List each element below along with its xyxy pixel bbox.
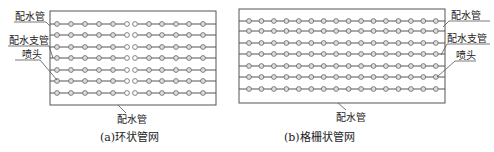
sprinkler-head-icon [111,56,116,61]
sprinkler-head-icon [187,22,192,27]
sprinkler-head-icon [83,68,88,73]
grid-network-diagram: 配水管 配水支管 喷头 配水管 (b)格栅状管网 [239,9,490,144]
sprinkler-head-icon [421,64,426,69]
sprinkler-head-icon [396,29,401,34]
sprinkler-head-icon [97,45,102,50]
sprinkler-head-icon [69,22,74,27]
sprinkler-head-icon [187,91,192,96]
sprinkler-head-icon [201,45,206,50]
sprinkler-head-icon [371,19,376,24]
sprinkler-head-icon [147,22,152,27]
sprinkler-head-icon [187,33,192,38]
sprinkler-head-icon [247,19,252,24]
sprinkler-head-icon [147,91,152,96]
sprinkler-head-icon [334,29,339,34]
sprinkler-head-icon [111,33,116,38]
sprinkler-head-icon [69,68,74,73]
sprinkler-head-icon [259,29,264,34]
sprinkler-head-icon [359,75,364,80]
sprinkler-head-icon [359,87,364,92]
sprinkler-head-icon [371,41,376,46]
sprinkler-head-icon [321,29,326,34]
sprinkler-head-icon [396,64,401,69]
sprinkler-head-icon [69,56,74,61]
sprinkler-head-icon [55,45,60,50]
sprinkler-head-icon [284,29,289,34]
sprinkler-head-icon [371,52,376,57]
sprinkler-head-icon [125,91,130,96]
sprinkler-head-icon [409,52,414,57]
sprinkler-head-icon [272,87,277,92]
sprinkler-head-icon [346,64,351,69]
sprinkler-head-icon [334,19,339,24]
sprinkler-head-icon [160,33,165,38]
sprinkler-head-icon [272,41,277,46]
sprinkler-head-icon [346,29,351,34]
sprinkler-head-icon [201,33,206,38]
pipe-network-diagrams: 配水管 配水支管 喷头 配水管 (a)环状管网 配水管 配水支管 喷头 配水管 … [0,0,494,152]
sprinkler-head-icon [409,75,414,80]
sprinkler-head-icon [409,29,414,34]
sprinkler-head-icon [421,29,426,34]
sprinkler-head-icon [259,52,264,57]
sprinkler-head-icon [55,68,60,73]
sprinkler-head-icon [433,29,438,34]
sprinkler-head-icon [97,56,102,61]
sprinkler-head-icon [433,41,438,46]
sprinkler-head-icon [396,87,401,92]
sprinkler-head-icon [284,41,289,46]
sprinkler-head-icon [133,68,138,73]
sprinkler-head-icon [125,22,130,27]
sprinkler-head-icon [321,41,326,46]
sprinkler-head-icon [384,87,389,92]
sprinkler-head-icon [111,68,116,73]
sprinkler-head-icon [259,87,264,92]
sprinkler-head-icon [409,87,414,92]
sprinkler-head-icon [247,64,252,69]
label-main-pipe-top-b: 配水管 [451,9,481,21]
sprinkler-head-icon [97,33,102,38]
sprinkler-head-icon [55,22,60,27]
ring-branch-pipes [50,22,216,96]
sprinkler-head-icon [321,19,326,24]
sprinkler-head-icon [321,64,326,69]
sprinkler-head-icon [201,22,206,27]
sprinkler-head-icon [334,64,339,69]
sprinkler-head-icon [125,45,130,50]
sprinkler-head-icon [409,41,414,46]
sprinkler-head-icon [247,52,252,57]
caption-a: (a)环状管网 [100,130,159,144]
sprinkler-head-icon [384,41,389,46]
sprinkler-head-icon [272,29,277,34]
sprinkler-head-icon [111,79,116,84]
sprinkler-head-icon [346,75,351,80]
sprinkler-head-icon [69,79,74,84]
sprinkler-head-icon [396,19,401,24]
sprinkler-head-icon [309,75,314,80]
sprinkler-head-icon [111,22,116,27]
sprinkler-head-icon [111,45,116,50]
sprinkler-head-icon [421,75,426,80]
sprinkler-head-icon [346,87,351,92]
sprinkler-head-icon [174,45,179,50]
sprinkler-head-icon [187,68,192,73]
label-branch-pipe-b: 配水支管 [447,32,487,44]
leader-main-pipe-b [443,21,490,27]
sprinkler-head-icon [247,41,252,46]
sprinkler-head-icon [371,64,376,69]
sprinkler-head-icon [259,75,264,80]
sprinkler-head-icon [97,68,102,73]
sprinkler-head-icon [69,45,74,50]
sprinkler-head-icon [433,64,438,69]
sprinkler-head-icon [296,29,301,34]
sprinkler-head-icon [133,56,138,61]
sprinkler-head-icon [147,33,152,38]
sprinkler-head-icon [284,75,289,80]
sprinkler-head-icon [309,52,314,57]
sprinkler-head-icon [125,68,130,73]
sprinkler-head-icon [187,79,192,84]
sprinkler-head-icon [201,56,206,61]
sprinkler-head-icon [296,52,301,57]
sprinkler-head-icon [421,41,426,46]
sprinkler-head-icon [160,45,165,50]
